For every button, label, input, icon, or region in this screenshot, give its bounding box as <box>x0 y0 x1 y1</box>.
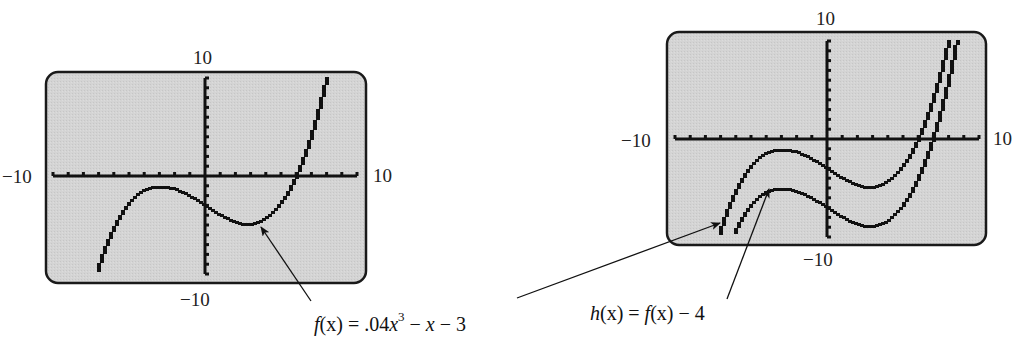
x-tick <box>158 172 161 176</box>
f-x: x <box>389 313 398 335</box>
y-tick <box>827 89 831 92</box>
y-tick <box>205 243 209 246</box>
x-tick <box>82 172 85 176</box>
x-tick <box>249 172 252 176</box>
x-tick <box>310 172 313 176</box>
y-tick <box>827 177 831 180</box>
left-calculator-screen <box>46 72 366 283</box>
y-tick <box>205 253 209 256</box>
x-tick <box>173 172 176 176</box>
y-tick <box>827 226 831 229</box>
x-tick <box>810 135 813 139</box>
f-minus: − <box>405 313 426 335</box>
x-tick <box>67 172 70 176</box>
x-tick <box>719 135 722 139</box>
f-exponent: 3 <box>398 309 405 324</box>
h-mid: (x) = <box>600 302 645 324</box>
y-tick <box>827 147 831 150</box>
y-tick <box>827 236 831 239</box>
x-tick <box>734 135 737 139</box>
x-tick <box>280 172 283 176</box>
x-tick <box>886 135 889 139</box>
x-tick <box>765 135 768 139</box>
y-tick <box>205 126 209 129</box>
right-x-min-label: −10 <box>621 131 651 150</box>
x-tick <box>750 135 753 139</box>
x-tick <box>704 135 707 139</box>
x-tick <box>978 135 981 139</box>
y-tick <box>205 273 209 276</box>
y-tick <box>827 79 831 82</box>
plot-canvas <box>0 0 1023 344</box>
x-tick <box>264 172 267 176</box>
y-tick <box>827 196 831 199</box>
y-tick <box>205 86 209 89</box>
x-tick <box>325 172 328 176</box>
y-tick <box>205 145 209 148</box>
right-x-max-label: 10 <box>993 129 1012 148</box>
f-formula-label: f(x) = .04x3 − x − 3 <box>314 312 466 334</box>
y-tick <box>205 135 209 138</box>
f-arrow-right <box>517 223 720 298</box>
y-tick <box>827 157 831 160</box>
x-tick <box>128 172 131 176</box>
left-y-min-label: −10 <box>180 290 210 309</box>
y-tick <box>205 263 209 266</box>
h-formula-label: h(x) = f(x) − 4 <box>590 303 705 323</box>
y-tick <box>205 194 209 197</box>
x-tick <box>689 135 692 139</box>
y-tick <box>827 187 831 190</box>
x-tick <box>97 172 100 176</box>
y-tick <box>205 77 209 80</box>
f-paren: (x) = .04 <box>320 313 390 335</box>
y-tick <box>205 214 209 217</box>
x-tick <box>947 135 950 139</box>
f-x2: x <box>426 313 435 335</box>
right-y-min-label: −10 <box>803 250 833 269</box>
x-tick <box>795 135 798 139</box>
x-tick <box>52 172 55 176</box>
x-tick <box>962 135 965 139</box>
y-tick <box>827 118 831 121</box>
x-tick <box>234 172 237 176</box>
y-tick <box>205 184 209 187</box>
h-name: h <box>590 302 600 324</box>
right-y-max-label: 10 <box>816 9 835 28</box>
y-tick <box>205 165 209 168</box>
y-tick <box>827 98 831 101</box>
y-tick <box>827 128 831 131</box>
x-tick <box>856 135 859 139</box>
left-x-min-label: −10 <box>2 167 32 186</box>
x-tick <box>871 135 874 139</box>
x-tick <box>841 135 844 139</box>
y-tick <box>205 224 209 227</box>
y-tick <box>205 106 209 109</box>
figure: 10 −10 −10 10 10 −10 −10 10 f(x) = .04x3… <box>0 0 1023 344</box>
x-tick <box>674 135 677 139</box>
y-tick <box>205 96 209 99</box>
x-tick <box>780 135 783 139</box>
y-tick <box>827 40 831 43</box>
y-tick <box>827 108 831 111</box>
x-tick <box>112 172 115 176</box>
f-tail: − 3 <box>435 313 466 335</box>
left-y-max-label: 10 <box>193 48 212 67</box>
y-tick <box>205 155 209 158</box>
x-tick <box>902 135 905 139</box>
left-x-max-label: 10 <box>373 166 392 185</box>
x-tick <box>188 172 191 176</box>
h-tail: (x) − 4 <box>650 302 705 324</box>
right-calculator-screen <box>667 32 986 245</box>
y-tick <box>205 233 209 236</box>
y-tick <box>827 216 831 219</box>
x-tick <box>340 172 343 176</box>
y-tick <box>205 116 209 119</box>
x-tick <box>356 172 359 176</box>
y-tick <box>827 49 831 52</box>
y-tick <box>827 59 831 62</box>
x-tick <box>219 172 222 176</box>
x-tick <box>143 172 146 176</box>
y-tick <box>827 69 831 72</box>
